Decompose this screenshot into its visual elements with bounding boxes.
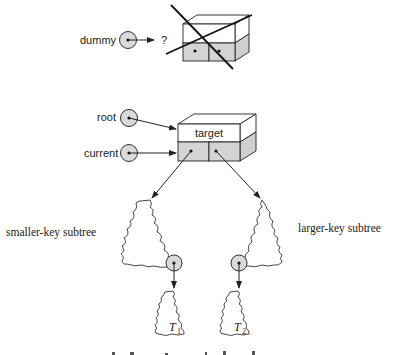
left-child-arrow [152, 151, 191, 198]
cut-off-caption-fragments [112, 351, 255, 355]
root-pointer-label: root [97, 111, 116, 123]
smaller-key-subtree-label: smaller-key subtree [6, 226, 96, 239]
root-pointer-icon [121, 110, 177, 130]
current-pointer-icon [121, 145, 177, 162]
right-subtree: larger-key subtree [231, 200, 381, 288]
target-key-label: target [195, 127, 223, 139]
t1-subscript: 1 [177, 327, 181, 336]
right-subtree-pointer-icon [231, 255, 247, 288]
main-section: root current target [84, 110, 260, 199]
crossed-out-node [166, 5, 252, 69]
dummy-pointer-icon [120, 32, 155, 49]
t2-subscript: 2 [242, 327, 246, 336]
current-pointer-label: current [84, 147, 118, 159]
dummy-pointer-label: dummy [80, 34, 117, 46]
dummy-unknown-target: ? [161, 34, 167, 46]
target-node: target [178, 114, 256, 161]
left-subtree-pointer-icon [166, 255, 182, 288]
subtree-t2: T 2 [220, 291, 249, 336]
left-subtree: smaller-key subtree [6, 200, 182, 288]
dummy-section: dummy ? [80, 5, 252, 69]
diagram-canvas: dummy ? root [0, 0, 399, 355]
subtree-t1: T 1 [155, 291, 184, 336]
larger-key-subtree-label: larger-key subtree [298, 222, 381, 235]
